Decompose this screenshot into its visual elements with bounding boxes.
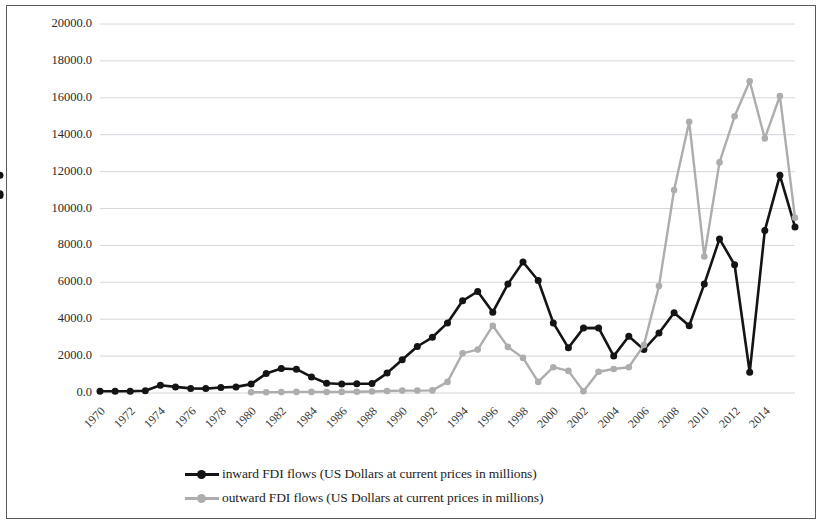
data-point-marker <box>746 78 753 85</box>
data-point-marker <box>308 389 315 396</box>
y-axis-tick-label: 16000.0 <box>22 90 92 105</box>
data-point-marker <box>112 388 119 395</box>
data-point-marker <box>429 334 436 341</box>
data-point-marker <box>384 388 391 395</box>
data-point-marker <box>550 319 557 326</box>
legend-marker-inward-icon <box>185 468 219 480</box>
data-point-marker <box>520 259 527 266</box>
data-point-marker <box>338 381 345 388</box>
data-point-marker <box>792 223 799 230</box>
data-point-marker <box>776 172 783 179</box>
data-point-marker <box>762 135 769 142</box>
data-point-marker <box>641 342 648 349</box>
data-point-marker <box>323 380 330 387</box>
data-point-marker <box>474 346 481 353</box>
gridlines-group <box>100 24 795 393</box>
data-point-marker <box>384 370 391 377</box>
data-point-marker <box>565 344 572 351</box>
y-axis-tick-label: 2000.0 <box>22 348 92 363</box>
data-point-marker <box>565 368 572 375</box>
data-point-marker <box>580 325 587 332</box>
data-point-marker <box>429 387 436 394</box>
chart-legend: inward FDI flows (US Dollars at current … <box>185 462 655 510</box>
data-point-marker <box>399 356 406 363</box>
data-point-marker <box>731 261 738 268</box>
data-point-marker <box>263 370 270 377</box>
data-point-marker <box>414 387 421 394</box>
data-point-marker <box>414 343 421 350</box>
data-point-marker <box>716 159 723 166</box>
data-point-marker <box>610 353 617 360</box>
data-point-marker <box>731 113 738 120</box>
legend-label-inward: inward FDI flows (US Dollars at current … <box>222 466 537 482</box>
data-point-marker <box>338 389 345 396</box>
data-point-marker <box>686 119 693 126</box>
data-point-marker <box>308 373 315 380</box>
legend-item-inward: inward FDI flows (US Dollars at current … <box>185 462 655 486</box>
data-point-marker <box>187 385 194 392</box>
data-point-marker <box>459 297 466 304</box>
data-point-marker <box>520 355 527 362</box>
data-point-marker <box>626 364 633 371</box>
data-point-marker <box>580 388 587 395</box>
data-point-marker <box>369 388 376 395</box>
data-point-marker <box>625 333 632 340</box>
data-point-marker <box>157 382 164 389</box>
data-point-marker <box>595 369 602 376</box>
data-point-marker <box>656 283 663 290</box>
data-point-marker <box>595 324 602 331</box>
data-point-marker <box>671 187 678 194</box>
line-chart-svg <box>0 0 823 526</box>
data-point-marker <box>399 387 406 394</box>
data-point-marker <box>701 253 708 260</box>
data-point-marker <box>671 309 678 316</box>
data-point-marker <box>0 172 4 179</box>
data-point-marker <box>293 366 300 373</box>
data-point-marker <box>686 322 693 329</box>
data-point-marker <box>142 387 149 394</box>
series-line <box>251 81 795 392</box>
data-point-marker <box>490 322 497 329</box>
data-point-marker <box>323 389 330 396</box>
data-point-marker <box>459 350 466 357</box>
data-point-marker <box>97 388 104 395</box>
data-point-marker <box>777 93 784 100</box>
y-axis-tick-label: 4000.0 <box>22 311 92 326</box>
data-point-marker <box>792 214 799 221</box>
data-point-marker <box>202 385 209 392</box>
y-axis-tick-label: 12000.0 <box>22 164 92 179</box>
data-point-marker <box>504 281 511 288</box>
y-axis-tick-label: 20000.0 <box>22 16 92 31</box>
data-point-marker <box>233 383 240 390</box>
data-point-marker <box>248 381 255 388</box>
data-point-marker <box>746 369 753 376</box>
data-point-marker <box>127 388 134 395</box>
data-point-marker <box>354 388 361 395</box>
plot-area: 0.02000.04000.06000.08000.010000.012000.… <box>0 0 823 526</box>
data-point-marker <box>610 366 617 373</box>
data-point-marker <box>656 330 663 337</box>
data-point-marker <box>444 319 451 326</box>
data-point-marker <box>761 227 768 234</box>
data-point-marker <box>505 344 512 351</box>
legend-marker-outward-icon <box>185 492 219 504</box>
data-point-marker <box>535 277 542 284</box>
y-axis-tick-label: 6000.0 <box>22 274 92 289</box>
data-point-marker <box>263 389 270 396</box>
data-point-marker <box>172 383 179 390</box>
data-point-marker <box>369 380 376 387</box>
y-axis-tick-label: 10000.0 <box>22 201 92 216</box>
data-point-marker <box>278 389 285 396</box>
y-axis-tick-label: 0.0 <box>22 385 92 400</box>
data-point-marker <box>248 389 255 396</box>
data-series-group <box>0 78 799 396</box>
data-point-marker <box>293 389 300 396</box>
data-point-marker <box>217 384 224 391</box>
y-axis-tick-label: 18000.0 <box>22 53 92 68</box>
data-point-marker <box>474 288 481 295</box>
data-point-marker <box>716 235 723 242</box>
y-axis-tick-label: 8000.0 <box>22 237 92 252</box>
data-point-marker <box>278 365 285 372</box>
series-line <box>100 175 795 391</box>
data-point-marker <box>489 309 496 316</box>
